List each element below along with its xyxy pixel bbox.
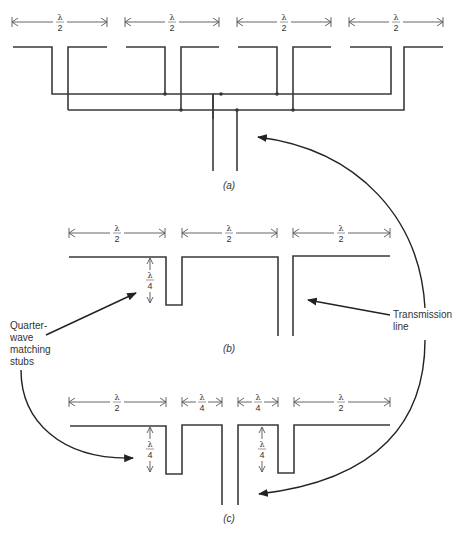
svg-text:2: 2	[169, 23, 174, 33]
svg-text:2: 2	[57, 23, 62, 33]
svg-text:λ: λ	[393, 13, 398, 22]
svg-text:λ: λ	[114, 224, 119, 233]
svg-text:2: 2	[338, 234, 343, 244]
svg-text:2: 2	[281, 23, 286, 33]
svg-text:line: line	[393, 321, 409, 332]
svg-text:2: 2	[114, 234, 119, 244]
junction-dots-a	[163, 92, 295, 112]
svg-text:2: 2	[114, 403, 119, 413]
caption-c: (c)	[223, 513, 235, 524]
svg-text:2: 2	[393, 23, 398, 33]
svg-text:λ: λ	[338, 393, 343, 402]
svg-text:Transmission: Transmission	[393, 309, 452, 320]
arrow-to-stub-b	[46, 293, 136, 335]
svg-text:wave: wave	[9, 332, 34, 343]
svg-text:λ: λ	[338, 224, 343, 233]
arrow-to-line-a	[258, 137, 425, 308]
svg-text:Quarter-: Quarter-	[10, 320, 47, 331]
svg-text:λ: λ	[255, 393, 260, 402]
svg-text:λ: λ	[281, 13, 286, 22]
svg-text:λ: λ	[259, 440, 264, 449]
svg-text:4: 4	[147, 450, 152, 460]
svg-text:4: 4	[255, 403, 260, 413]
svg-text:2: 2	[226, 234, 231, 244]
panel-b: λ 2 λ 2 λ 2 λ 4 (b)	[69, 223, 390, 354]
svg-text:4: 4	[199, 403, 204, 413]
svg-text:stubs: stubs	[10, 356, 34, 367]
svg-text:2: 2	[338, 403, 343, 413]
quarter-wave-callout: Quarter- wave matching stubs	[9, 293, 136, 458]
svg-text:λ: λ	[114, 393, 119, 402]
svg-text:4: 4	[147, 281, 152, 291]
caption-b: (b)	[223, 343, 235, 354]
svg-text:λ: λ	[147, 440, 152, 449]
panel-a: λ 2 λ 2 λ 2 λ 2	[12, 12, 443, 191]
arrow-to-stub-c	[21, 370, 133, 458]
svg-text:4: 4	[259, 450, 264, 460]
svg-text:λ: λ	[169, 13, 174, 22]
svg-text:λ: λ	[147, 271, 152, 280]
arrow-to-line-b	[308, 300, 390, 315]
array-elements-c	[70, 425, 390, 505]
transmission-line-callout: Transmission line	[258, 137, 452, 494]
svg-text:λ: λ	[226, 224, 231, 233]
antenna-diagram: λ 2 λ 2 λ 2 λ 2	[0, 0, 459, 538]
caption-a: (a)	[223, 180, 235, 191]
arrow-to-line-c	[259, 340, 425, 494]
array-elements-b	[69, 256, 390, 336]
dimension-lines-a	[12, 17, 443, 27]
array-elements-a	[13, 47, 443, 171]
svg-text:λ: λ	[57, 13, 62, 22]
svg-text:λ: λ	[199, 393, 204, 402]
svg-text:matching: matching	[10, 344, 51, 355]
